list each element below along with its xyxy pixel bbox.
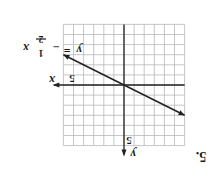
y-tick-label: 5 — [126, 135, 132, 147]
equation-lhs: y — [76, 43, 84, 57]
x-tick-label: 5 — [69, 73, 75, 85]
equation-minus: − — [52, 40, 59, 54]
equation-equals: = — [63, 43, 70, 57]
coordinate-plane: y=−21xx55y5. — [0, 0, 219, 172]
problem-number-label: 5. — [196, 149, 207, 164]
equation-numerator: 1 — [39, 48, 44, 59]
y-axis-arrow-icon — [122, 150, 127, 157]
equation-variable: x — [23, 41, 30, 55]
x-axis-label: x — [49, 73, 56, 87]
labels: y=−21xx55y5. — [23, 34, 206, 164]
problem-5-graph: y=−21xx55y5. — [0, 0, 219, 172]
y-axis-label: y — [130, 147, 138, 161]
